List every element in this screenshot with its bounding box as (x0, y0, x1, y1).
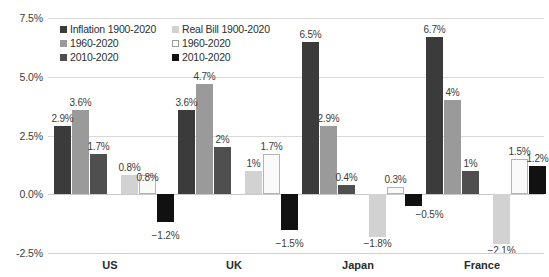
y-axis-tick-label: -2.5% (0, 248, 43, 259)
x-axis-category-label: US (48, 260, 172, 271)
bar-value-label: −1.2% (145, 231, 187, 241)
bar-value-label: 6.7% (414, 25, 456, 35)
bar (426, 37, 443, 194)
bar-value-label: 6.5% (290, 30, 332, 40)
bar-value-label: −0.5% (409, 210, 451, 220)
chart-legend: Inflation 1900-2020Real Bill 1900-202019… (60, 22, 295, 64)
gridline (48, 77, 544, 78)
x-axis-rule (48, 253, 544, 254)
bar (405, 194, 422, 206)
legend-item[interactable]: 2010-2020 (172, 50, 295, 64)
grouped-bar-chart: 7.5%5.0%2.5%0.0%-2.5% 2.9%3.6%1.7%0.8%0.… (0, 0, 549, 277)
legend-label: Inflation 1900-2020 (70, 24, 156, 35)
legend-swatch-icon (60, 26, 67, 33)
bar (511, 159, 528, 194)
y-axis-tick-label: 2.5% (0, 131, 43, 142)
legend-swatch-icon (172, 40, 179, 47)
legend-item[interactable]: 1960-2020 (172, 36, 295, 50)
legend-item[interactable]: Real Bill 1900-2020 (172, 22, 295, 36)
bar-value-label: 1.2% (517, 154, 549, 164)
bar-value-label: 2.9% (42, 114, 84, 124)
bar (462, 171, 479, 195)
bar (90, 154, 107, 194)
bar-value-label: 3.6% (60, 98, 102, 108)
bar-value-label: 4.7% (184, 72, 226, 82)
bar (245, 171, 262, 195)
bar-value-label: −2.1% (481, 246, 523, 256)
bar (54, 126, 71, 194)
bar (214, 147, 231, 194)
bar-value-label: 0.4% (326, 173, 368, 183)
legend-label: 2010-2020 (182, 52, 230, 63)
gridline (48, 136, 544, 137)
legend-label: 1960-2020 (70, 38, 118, 49)
bar-value-label: 1.7% (251, 142, 293, 152)
bar-value-label: 4% (432, 88, 474, 98)
legend-swatch-icon (60, 54, 67, 61)
bar (157, 194, 174, 222)
legend-label: Real Bill 1900-2020 (182, 24, 270, 35)
bar (387, 187, 404, 194)
legend-label: 2010-2020 (70, 52, 118, 63)
legend-swatch-icon (60, 40, 67, 47)
bar (338, 185, 355, 194)
legend-item[interactable]: 2010-2020 (60, 50, 172, 64)
legend-item[interactable]: 1960-2020 (60, 36, 172, 50)
x-axis-category-label: Japan (296, 260, 420, 271)
bar (529, 166, 546, 194)
bar-value-label: −1.8% (357, 239, 399, 249)
bar-value-label: 0.3% (375, 175, 417, 185)
bar-value-label: 0.8% (127, 173, 169, 183)
x-axis-category-label: France (420, 260, 544, 271)
bar-value-label: 1% (233, 159, 275, 169)
y-axis-tick-label: 0.0% (0, 189, 43, 200)
bar (369, 194, 386, 236)
legend-swatch-icon (172, 26, 179, 33)
bar (281, 194, 298, 229)
legend-swatch-icon (172, 54, 179, 61)
bar-value-label: 2.9% (308, 114, 350, 124)
bar-value-label: 3.6% (166, 98, 208, 108)
x-axis-category-label: UK (172, 260, 296, 271)
bar-value-label: 1.7% (78, 142, 120, 152)
gridline (48, 18, 544, 19)
bar (178, 110, 195, 195)
bar (444, 100, 461, 194)
bar-value-label: 2% (202, 135, 244, 145)
bar-value-label: 1% (450, 159, 492, 169)
bar (320, 126, 337, 194)
legend-label: 1960-2020 (182, 38, 230, 49)
bar-value-label: −1.5% (269, 239, 311, 249)
y-axis-tick-label: 7.5% (0, 13, 43, 24)
legend-item[interactable]: Inflation 1900-2020 (60, 22, 172, 36)
bar (493, 194, 510, 243)
y-axis-tick-label: 5.0% (0, 72, 43, 83)
